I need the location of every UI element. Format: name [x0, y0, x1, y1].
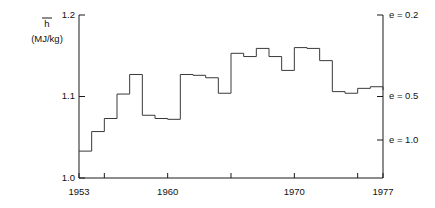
- y-tick-label-1-0: 1.0: [62, 172, 75, 183]
- x-axis-tick-labels: 1953196019701977: [68, 186, 393, 197]
- chart-canvas: h (MJ/kg) 1.2 1.1 1.0 e = 0.2 e = 0.5 e …: [0, 0, 435, 208]
- e-tick-label-0-5: e = 0.5: [389, 90, 418, 101]
- e-tick-label-0-2: e = 0.2: [389, 9, 418, 20]
- y-tick-label-1-1: 1.1: [62, 90, 75, 101]
- data-series-step-line: [79, 48, 383, 152]
- e-tick-label-1-0: e = 1.0: [389, 134, 418, 145]
- axes-frame: [79, 15, 383, 178]
- x-tick-label-1970: 1970: [284, 186, 305, 197]
- y-axis-ticks-right: [377, 15, 383, 140]
- x-tick-label-1977: 1977: [372, 186, 393, 197]
- y-axis-label-symbol: h: [44, 18, 49, 29]
- x-axis-ticks: [79, 173, 383, 178]
- x-tick-label-1953: 1953: [68, 186, 89, 197]
- y-axis-label-units: (MJ/kg): [31, 33, 63, 44]
- y-axis-ticks-left: [79, 15, 85, 178]
- x-tick-label-1960: 1960: [157, 186, 178, 197]
- y-tick-label-1-2: 1.2: [62, 9, 75, 20]
- chart-figure: h (MJ/kg) 1.2 1.1 1.0 e = 0.2 e = 0.5 e …: [0, 0, 435, 208]
